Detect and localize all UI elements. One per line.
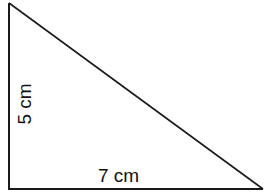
base-label: 7 cm [98,166,139,185]
hypotenuse [9,3,263,189]
height-label: 5 cm [15,83,34,124]
